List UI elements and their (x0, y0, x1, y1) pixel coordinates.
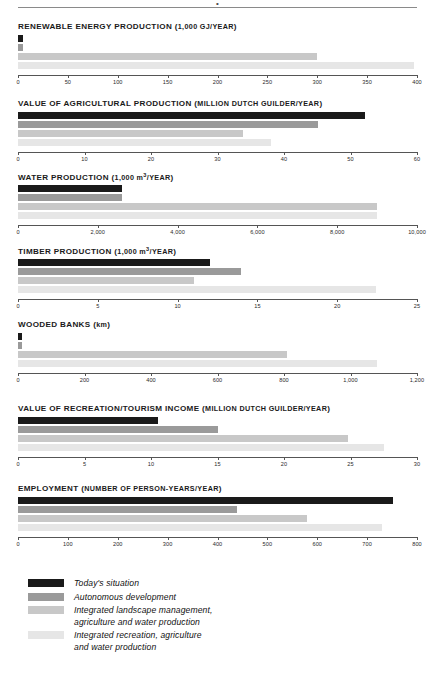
bar-row (18, 185, 417, 194)
bar-row (18, 139, 417, 148)
chart-title: WATER PRODUCTION (1,000 m3/YEAR) (18, 172, 174, 182)
legend-swatch (28, 579, 64, 587)
bar (18, 506, 237, 513)
bar (18, 44, 23, 51)
axis-tick-label: 300 (312, 79, 322, 85)
header-mark: • (216, 0, 219, 8)
axis-tick-label: 200 (80, 377, 90, 383)
axis-tick-label: 1,200 (410, 377, 425, 383)
axis-tick-label: 60 (414, 156, 420, 162)
axis-tick-label: 0 (16, 303, 19, 309)
bar-row (18, 212, 417, 221)
axis-tick (284, 373, 285, 376)
axis-tick (168, 537, 169, 540)
axis-tick (218, 373, 219, 376)
axis-tick (351, 152, 352, 155)
bar-row (18, 286, 417, 295)
axis-tick-label: 30 (414, 461, 420, 467)
bar-group (18, 497, 417, 533)
legend-label: Integrated recreation, agriculture and w… (74, 630, 202, 653)
axis-tick (317, 75, 318, 78)
legend-swatch (28, 593, 64, 601)
axis-tick (284, 152, 285, 155)
bar-group (18, 259, 417, 295)
bar-row (18, 277, 417, 286)
axis-tick-label: 30 (214, 156, 220, 162)
axis-tick-label: 400 (412, 79, 422, 85)
legend-label: Autonomous development (74, 592, 176, 604)
bar-row (18, 435, 417, 444)
axis-tick-label: 5 (83, 461, 86, 467)
bar-row (18, 268, 417, 277)
axis-tick (257, 225, 258, 228)
chart-title: WOODED BANKS (km) (18, 320, 110, 329)
axis-tick-label: 5 (96, 303, 99, 309)
axis-tick-label: 0 (16, 541, 19, 547)
chart-title: RENEWABLE ENERGY PRODUCTION (1,000 GJ/YE… (18, 22, 237, 31)
bar-row (18, 62, 417, 71)
axis-tick-label: 50 (65, 79, 71, 85)
legend-swatch (28, 631, 64, 639)
bar (18, 333, 22, 340)
axis-tick (18, 225, 19, 228)
bar (18, 62, 414, 69)
legend-item: Today's situation (28, 578, 328, 590)
axis-tick-label: 200 (113, 541, 123, 547)
axis-tick (68, 75, 69, 78)
bar-group (18, 185, 417, 221)
legend-label: Today's situation (74, 578, 139, 590)
axis-tick-label: 1,000 (343, 377, 358, 383)
bar-row (18, 194, 417, 203)
axis-tick-label: 100 (113, 79, 123, 85)
bar-group (18, 35, 417, 71)
bar-row (18, 506, 417, 515)
axis-tick-label: 25 (414, 303, 420, 309)
bar-group (18, 333, 417, 369)
axis-tick (218, 152, 219, 155)
bar (18, 212, 377, 219)
axis-tick (178, 299, 179, 302)
axis-tick (367, 75, 368, 78)
bar (18, 130, 243, 137)
axis-tick-label: 40 (281, 156, 287, 162)
axis-tick (351, 373, 352, 376)
axis-tick (18, 75, 19, 78)
axis-tick-label: 25 (347, 461, 353, 467)
bar-row (18, 444, 417, 453)
legend-item: Autonomous development (28, 592, 328, 604)
axis-tick (417, 457, 418, 460)
x-axis: 0102030405060 (18, 152, 417, 166)
axis-tick-label: 2,000 (91, 229, 106, 235)
axis-tick-label: 20 (281, 461, 287, 467)
axis-tick-label: 600 (213, 377, 223, 383)
axis-tick-label: 500 (263, 541, 273, 547)
axis-tick-label: 10 (174, 303, 180, 309)
bar (18, 515, 307, 522)
axis-tick (18, 373, 19, 376)
axis-tick-label: 300 (163, 541, 173, 547)
axis-tick-label: 6,000 (250, 229, 265, 235)
chart-title: EMPLOYMENT (NUMBER OF PERSON-YEARS/YEAR) (18, 484, 222, 493)
axis-tick (417, 299, 418, 302)
axis-tick (267, 75, 268, 78)
axis-tick (98, 225, 99, 228)
chart-title: TIMBER PRODUCTION (1,000 m3/YEAR) (18, 246, 176, 256)
bar-group (18, 417, 417, 453)
bar-group (18, 112, 417, 148)
axis-tick (178, 225, 179, 228)
axis-tick-label: 350 (362, 79, 372, 85)
x-axis: 0100200300400500600700800 (18, 537, 417, 551)
axis-tick (118, 537, 119, 540)
axis-tick (85, 373, 86, 376)
axis-tick (18, 299, 19, 302)
bar (18, 53, 317, 60)
bar (18, 497, 393, 504)
axis-tick (168, 75, 169, 78)
axis-tick (118, 75, 119, 78)
bar-row (18, 130, 417, 139)
bar-row (18, 333, 417, 342)
axis-tick (85, 457, 86, 460)
bar-row (18, 515, 417, 524)
axis-tick-label: 0 (16, 156, 19, 162)
bar (18, 342, 22, 349)
